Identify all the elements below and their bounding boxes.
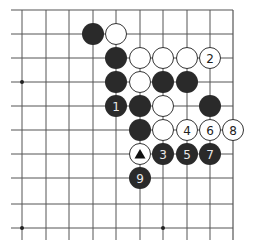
board-grid (11, 10, 233, 240)
white-stone[interactable]: 2 (200, 48, 221, 69)
move-number-label: 5 (183, 148, 191, 162)
black-stone[interactable] (199, 95, 221, 117)
black-stone-disc (129, 119, 151, 141)
star-point (161, 226, 165, 230)
black-stone-disc (82, 23, 104, 45)
white-stone-disc (153, 96, 174, 117)
white-stone[interactable] (153, 96, 174, 117)
white-stone-disc (177, 48, 198, 69)
white-stone-disc (130, 48, 151, 69)
white-stone-disc (106, 24, 127, 45)
white-stone[interactable] (153, 120, 174, 141)
star-point (20, 80, 24, 84)
black-stone-disc (176, 71, 198, 93)
black-stone[interactable]: 1 (105, 95, 127, 117)
black-stone[interactable]: 5 (176, 143, 198, 165)
white-stone-disc (153, 120, 174, 141)
go-board[interactable]: 214683579 (0, 0, 256, 252)
black-stone[interactable] (105, 47, 127, 69)
black-stone-disc (129, 95, 151, 117)
black-stone[interactable] (129, 119, 151, 141)
white-stone-disc (130, 72, 151, 93)
black-stone[interactable]: 7 (199, 143, 221, 165)
stones-layer: 214683579 (82, 23, 244, 189)
star-point (20, 226, 24, 230)
white-stone[interactable]: 4 (177, 120, 198, 141)
white-stone[interactable]: 8 (223, 120, 244, 141)
move-number-label: 6 (206, 124, 214, 138)
white-stone[interactable] (130, 144, 151, 165)
white-stone[interactable] (130, 48, 151, 69)
white-stone[interactable] (106, 24, 127, 45)
black-stone-disc (152, 71, 174, 93)
black-stone[interactable] (152, 71, 174, 93)
white-stone[interactable]: 6 (200, 120, 221, 141)
black-stone[interactable] (82, 23, 104, 45)
move-number-label: 7 (206, 148, 214, 162)
move-number-label: 1 (112, 100, 120, 114)
move-number-label: 8 (229, 124, 237, 138)
black-stone[interactable] (129, 95, 151, 117)
move-number-label: 3 (159, 148, 167, 162)
white-stone[interactable] (153, 48, 174, 69)
black-stone-disc (105, 47, 127, 69)
black-stone[interactable] (176, 71, 198, 93)
move-number-label: 9 (136, 172, 144, 186)
black-stone[interactable]: 3 (152, 143, 174, 165)
black-stone-disc (105, 71, 127, 93)
move-number-label: 2 (206, 52, 214, 66)
white-stone[interactable] (177, 48, 198, 69)
move-number-label: 4 (183, 124, 191, 138)
black-stone[interactable] (105, 71, 127, 93)
white-stone-disc (153, 48, 174, 69)
black-stone-disc (199, 95, 221, 117)
white-stone[interactable] (130, 72, 151, 93)
black-stone[interactable]: 9 (129, 167, 151, 189)
